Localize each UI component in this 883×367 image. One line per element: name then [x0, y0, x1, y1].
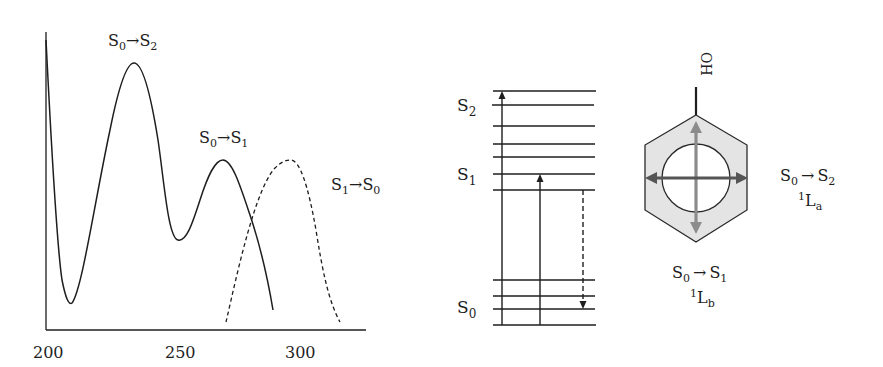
figure-canvas: 200 250 300 S0→S2 S0→S1 S1→S0: [0, 0, 883, 367]
state-label-s0: S0: [457, 297, 476, 321]
x-tick-300: 300: [285, 343, 316, 362]
arrowhead-up-icon: [499, 91, 506, 99]
label-s1-s0: S1→S0: [331, 175, 380, 197]
band-label-1lb: 1Lb: [690, 287, 715, 310]
label-molecule-s0-s2: S0→S2: [780, 166, 835, 188]
x-tick-250: 250: [165, 343, 196, 362]
label-s0-s2: S0→S2: [108, 31, 157, 53]
label-molecule-s0-s1: S0→S1: [672, 263, 727, 285]
label-s0-s1: S0→S1: [199, 128, 248, 150]
fluorescence-curve: [226, 160, 340, 322]
x-tick-200: 200: [33, 343, 64, 362]
arrowhead-down-icon: [580, 301, 587, 309]
state-label-s1: S1: [457, 164, 476, 188]
absorption-curve: [46, 40, 273, 310]
arrowhead-up-icon: [537, 174, 544, 182]
state-label-s2: S2: [457, 95, 476, 119]
energy-level-diagram: [492, 91, 596, 325]
band-label-1la: 1La: [798, 190, 823, 213]
phenol-molecule: OH: [645, 52, 748, 242]
hydroxyl-label: OH: [698, 52, 714, 76]
spectrum-panel: 200 250 300 S0→S2 S0→S1 S1→S0: [33, 31, 380, 362]
